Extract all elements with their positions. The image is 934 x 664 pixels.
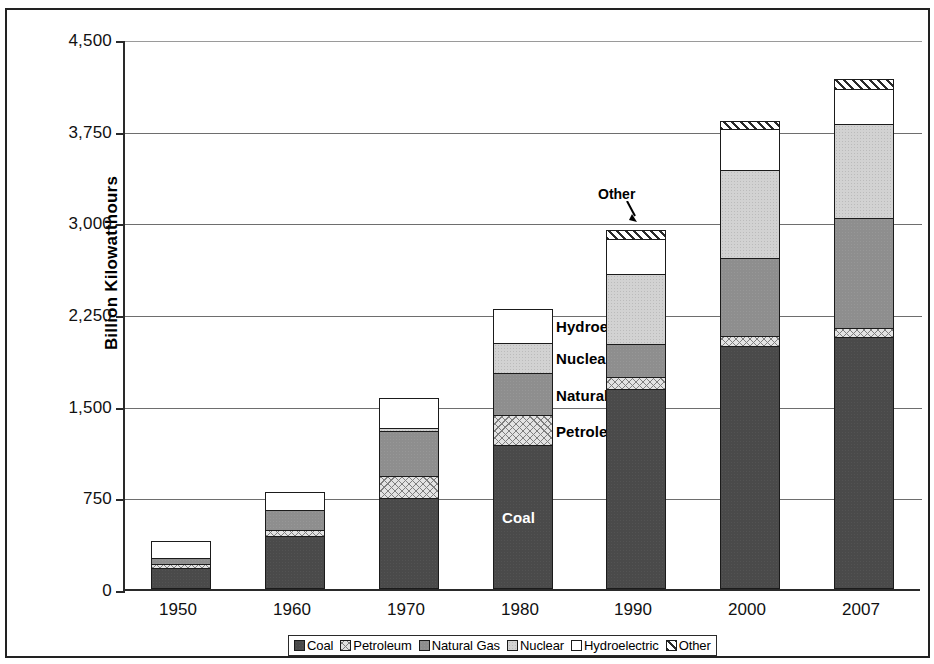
legend-label: Coal xyxy=(307,638,333,653)
gridline xyxy=(125,41,922,42)
legend-swatch-nuclear xyxy=(507,640,518,651)
segment-coal xyxy=(380,499,438,588)
segment-nuclear xyxy=(835,125,893,219)
bar-1960 xyxy=(265,492,325,589)
segment-nuclear xyxy=(380,429,438,431)
y-axis-tick xyxy=(116,316,125,318)
other-annotation-label: Other xyxy=(598,186,635,202)
segment-natural-gas xyxy=(835,219,893,329)
legend-swatch-other xyxy=(666,640,677,651)
y-axis-tick xyxy=(116,499,125,501)
segment-hydroelectric: Hydroelectric xyxy=(494,310,552,344)
bar-2000 xyxy=(720,121,780,589)
y-axis-tick-label: 0 xyxy=(102,581,112,601)
segment-hydroelectric xyxy=(721,130,779,171)
legend-label: Natural Gas xyxy=(432,638,500,653)
segment-label-coal: Coal xyxy=(502,509,535,526)
y-axis-tick-labels: 07501,5002,2503,0003,7504,500 xyxy=(20,41,112,591)
segment-natural-gas xyxy=(607,345,665,377)
legend-swatch-hydroelectric xyxy=(571,640,582,651)
segment-petroleum xyxy=(380,477,438,500)
segment-nuclear xyxy=(721,171,779,259)
y-axis-tick-label: 4,500 xyxy=(68,31,112,51)
segment-petroleum xyxy=(721,337,779,347)
y-axis-tick-label: 3,750 xyxy=(68,123,112,143)
gridline xyxy=(125,133,922,134)
segment-nuclear xyxy=(607,275,665,345)
gridline xyxy=(125,224,922,225)
segment-label-nuclear: Nuclear xyxy=(556,350,612,367)
legend-label: Nuclear xyxy=(520,638,564,653)
y-axis-tick-label: 2,250 xyxy=(68,306,112,326)
y-axis-tick xyxy=(116,41,125,43)
segment-hydroelectric xyxy=(152,542,210,559)
segment-coal: Coal xyxy=(494,446,552,588)
legend-label: Other xyxy=(679,638,711,653)
bar-1970 xyxy=(379,398,439,589)
segment-coal xyxy=(721,347,779,588)
segment-petroleum xyxy=(835,329,893,338)
legend-label: Hydroelectric xyxy=(584,638,659,653)
y-axis-tick-label: 750 xyxy=(83,489,112,509)
y-axis-tick xyxy=(116,408,125,410)
segment-petroleum: Petroleum xyxy=(494,416,552,446)
x-axis-label-2000: 2000 xyxy=(687,600,807,620)
x-axis-label-1950: 1950 xyxy=(118,600,238,620)
legend-item-petroleum: Petroleum xyxy=(340,638,411,653)
y-axis-tick xyxy=(116,224,125,226)
x-axis-label-1970: 1970 xyxy=(346,600,466,620)
segment-hydroelectric xyxy=(607,240,665,275)
segment-hydroelectric xyxy=(380,399,438,429)
bar-2007 xyxy=(834,79,894,589)
legend-item-natural-gas: Natural Gas xyxy=(419,638,500,653)
y-axis-tick-label: 3,000 xyxy=(68,214,112,234)
x-axis-label-1990: 1990 xyxy=(573,600,693,620)
segment-petroleum xyxy=(607,378,665,390)
legend-swatch-coal xyxy=(294,640,305,651)
legend-item-hydroelectric: Hydroelectric xyxy=(571,638,659,653)
chart-legend: CoalPetroleumNatural GasNuclearHydroelec… xyxy=(288,635,717,656)
legend-swatch-petroleum xyxy=(340,640,351,651)
segment-natural-gas: Natural Gas xyxy=(494,374,552,416)
bar-1950 xyxy=(151,541,211,589)
segment-other xyxy=(835,80,893,90)
chart-page: Billion Kilowatthours 07501,5002,2503,00… xyxy=(0,0,934,664)
segment-other xyxy=(721,122,779,131)
segment-other xyxy=(607,231,665,240)
bar-1990 xyxy=(606,230,666,589)
legend-label: Petroleum xyxy=(353,638,411,653)
legend-item-other: Other xyxy=(666,638,711,653)
segment-coal xyxy=(152,569,210,588)
segment-petroleum xyxy=(266,531,324,537)
x-axis-label-1980: 1980 xyxy=(460,600,580,620)
segment-nuclear: Nuclear xyxy=(494,344,552,375)
segment-petroleum xyxy=(152,565,210,569)
y-axis-tick-label: 1,500 xyxy=(68,398,112,418)
legend-item-coal: Coal xyxy=(294,638,333,653)
legend-item-nuclear: Nuclear xyxy=(507,638,564,653)
segment-natural-gas xyxy=(266,511,324,531)
plot-area: CoalPetroleumNatural GasNuclearHydroelec… xyxy=(123,41,920,591)
segment-coal xyxy=(835,338,893,588)
bar-1980: CoalPetroleumNatural GasNuclearHydroelec… xyxy=(493,309,553,589)
legend-swatch-natural-gas xyxy=(419,640,430,651)
segment-coal xyxy=(266,537,324,588)
segment-natural-gas xyxy=(721,259,779,337)
x-axis-label-2007: 2007 xyxy=(801,600,921,620)
x-axis-label-1960: 1960 xyxy=(232,600,352,620)
y-axis-tick xyxy=(116,133,125,135)
segment-hydroelectric xyxy=(835,90,893,125)
segment-hydroelectric xyxy=(266,493,324,511)
segment-natural-gas xyxy=(380,432,438,477)
other-annotation-arrow xyxy=(625,201,639,223)
segment-coal xyxy=(607,390,665,588)
segment-natural-gas xyxy=(152,559,210,565)
y-axis-tick xyxy=(116,591,125,593)
